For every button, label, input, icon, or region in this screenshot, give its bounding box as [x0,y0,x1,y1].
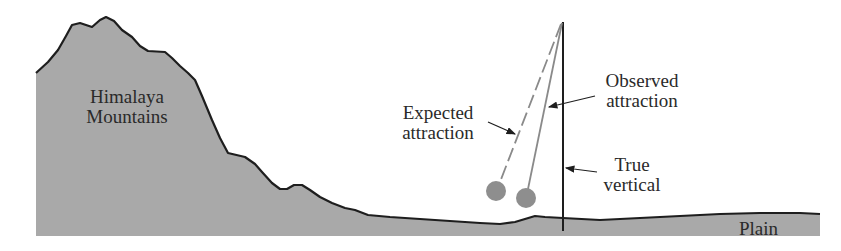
expected-attraction-label: Expected attraction [392,103,484,143]
true-label-line1: True [596,155,668,175]
observed-label-line1: Observed [596,71,688,91]
observed-arrow [549,96,595,107]
expected-label-line1: Expected [392,103,484,123]
observed-pendulum-string [528,23,562,189]
expected-arrow [488,122,515,134]
expected-pendulum-string [500,24,561,182]
expected-label-line2: attraction [392,123,484,143]
observed-pendulum-bob [516,188,536,208]
observed-attraction-label: Observed attraction [596,71,688,111]
mountains-label-line1: Himalaya [72,87,182,107]
true-label-line2: vertical [596,175,668,195]
expected-pendulum-bob [486,181,506,201]
plain-label: Plain [739,219,778,239]
mountains-label: Himalaya Mountains [72,87,182,127]
true-vertical-label: True vertical [596,155,668,195]
observed-label-line2: attraction [596,91,688,111]
true-vertical-arrow [566,168,597,172]
mountains-label-line2: Mountains [72,107,182,127]
